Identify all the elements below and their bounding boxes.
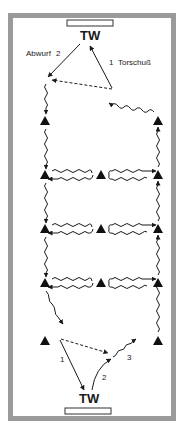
pass-number: 1 [60, 355, 65, 364]
bottom-goalkeeper-label: TW [79, 391, 100, 406]
throw-out-label: Abwurf [26, 49, 52, 58]
drill-diagram: TW TW Abwurf 2 1 Torschuß 1 2 3 [0, 0, 187, 429]
top-goal [67, 20, 113, 26]
shot-label: Torschuß [118, 58, 151, 67]
shot-number: 1 [109, 58, 114, 67]
top-goalkeeper-label: TW [80, 28, 101, 43]
throw-out-number: 2 [56, 49, 61, 58]
bottom-goal [65, 408, 111, 414]
throw-number: 2 [102, 373, 107, 382]
dribble-number: 3 [127, 353, 132, 362]
field-frame [11, 16, 174, 419]
